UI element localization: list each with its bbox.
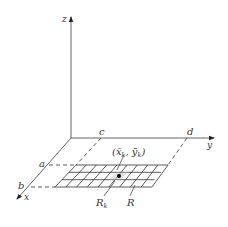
bound-b-label: b	[18, 180, 24, 191]
subrectangle-rk-label: Rk	[95, 197, 108, 210]
partition-grid	[55, 165, 168, 187]
double-integral-partition-diagram: z y x a b c d (x̄k, ȳk) Rk R	[0, 0, 228, 227]
sample-point-label: (x̄k, ȳk)	[112, 146, 145, 159]
x-axis-label: x	[24, 192, 29, 202]
bound-a-label: a	[39, 158, 45, 169]
z-axis-label: z	[61, 14, 67, 24]
axes	[17, 17, 214, 199]
rk-leader	[104, 181, 115, 196]
bound-d-label: d	[187, 126, 193, 137]
bound-c-label: c	[99, 126, 105, 137]
y-axis-label: y	[206, 140, 213, 150]
dashed-line-c	[76, 138, 101, 165]
sample-point	[117, 174, 121, 178]
dashed-line-d	[168, 138, 187, 165]
region-r-label: R	[126, 197, 135, 208]
